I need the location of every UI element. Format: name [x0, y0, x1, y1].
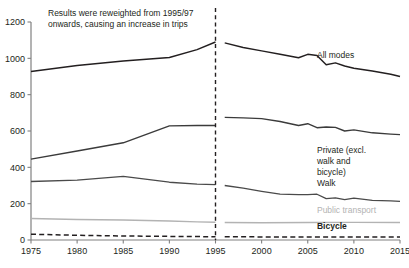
series-label-private-excl-walk-and-bicycle-line-0: Private (excl.: [317, 145, 366, 155]
x-tick-label-2: 1985: [113, 246, 133, 256]
series-line-public-transport-pre: [31, 219, 216, 223]
y-axis: 020040060080010001200: [5, 17, 31, 245]
y-tick-label-4: 800: [10, 90, 25, 100]
series-label-all-modes: All modes: [317, 50, 354, 60]
x-tick-label-5: 2000: [252, 246, 272, 256]
x-tick-label-8: 2015: [390, 246, 409, 256]
chart-canvas: 020040060080010001200 197519801985199019…: [0, 0, 409, 268]
series-label-public-transport: Public transport: [317, 205, 377, 215]
y-tick-label-2: 400: [10, 163, 25, 173]
reweight-note-line-1: Results were reweighted from 1995/97: [48, 8, 194, 18]
series-label-private-excl-walk-and-bicycle-line-2: bicycle): [317, 167, 346, 177]
series-line-all-modes-pre: [31, 42, 216, 71]
x-tick-label-1: 1980: [67, 246, 87, 256]
y-tick-label-1: 200: [10, 199, 25, 209]
y-tick-label-0: 0: [20, 235, 25, 245]
x-tick-label-3: 1990: [159, 246, 179, 256]
series-line-walk-pre: [31, 176, 216, 184]
x-tick-label-7: 2010: [344, 246, 364, 256]
series-line-walk-post: [225, 186, 400, 202]
y-tick-label-6: 1200: [5, 17, 25, 27]
series-label-private-excl-walk-and-bicycle-line-1: walk and: [316, 156, 351, 166]
series-line-private-excl-walk-and-bicycle-post: [225, 117, 400, 134]
x-tick-label-4: 1995: [205, 246, 225, 256]
line-chart: 020040060080010001200 197519801985199019…: [0, 0, 409, 268]
x-axis: 197519801985199019952000200520102015: [21, 240, 409, 256]
series-line-all-modes-post: [225, 43, 400, 77]
chart-annotation: Results were reweighted from 1995/97onwa…: [48, 8, 194, 29]
x-tick-label-6: 2005: [298, 246, 318, 256]
series-line-bicycle-pre: [31, 234, 216, 237]
y-tick-label-5: 1000: [5, 54, 25, 64]
series-line-private-excl-walk-and-bicycle-pre: [31, 126, 216, 160]
series-label-walk: Walk: [317, 178, 336, 188]
series-labels: All modesPrivate (excl.walk andbicycle)W…: [316, 50, 377, 230]
series-label-bicycle: Bicycle: [317, 221, 347, 231]
y-tick-label-3: 600: [10, 126, 25, 136]
x-tick-label-0: 1975: [21, 246, 41, 256]
reweight-note-line-2: onwards, causing an increase in trips: [48, 19, 188, 29]
